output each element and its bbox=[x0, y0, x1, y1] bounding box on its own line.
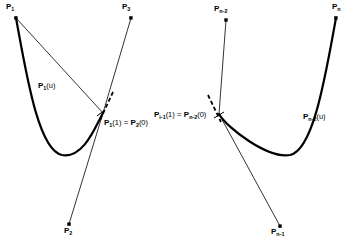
right-control-polygon-lower bbox=[219, 114, 280, 226]
label-p2: P2 bbox=[64, 227, 72, 235]
left-control-polygon-lower bbox=[69, 113, 103, 224]
right-control-polygon-upper bbox=[219, 20, 226, 114]
right-spline-curve bbox=[219, 18, 336, 155]
label-p3: P3 bbox=[122, 3, 130, 11]
point-marker-pn bbox=[334, 16, 337, 19]
point-marker-p1 bbox=[14, 16, 17, 19]
diagram-canvas: P1 P3 P2 P1(u) Pn-2 Pn Pn-1 Pn-2(u) P1(1… bbox=[0, 0, 353, 241]
left-spline-curve bbox=[16, 18, 103, 155]
equation-right-continuity: Pi-1(1) = Pn-2(0) bbox=[154, 111, 206, 119]
equation-left-continuity: P1(1) = P2(0) bbox=[104, 119, 148, 127]
label-p1: P1 bbox=[6, 3, 14, 11]
label-p1-of-u: P1(u) bbox=[38, 82, 55, 90]
label-pn-minus-2: Pn-2 bbox=[214, 5, 227, 13]
label-pn-minus-2-of-u: Pn-2(u) bbox=[303, 113, 325, 121]
label-pn: Pn bbox=[332, 3, 341, 11]
diagram-svg bbox=[0, 0, 353, 241]
point-marker-pn-minus-2 bbox=[224, 18, 227, 21]
label-pn-minus-1: Pn-1 bbox=[271, 228, 284, 236]
right-curve-group bbox=[208, 16, 338, 228]
point-marker-p3 bbox=[129, 16, 132, 19]
